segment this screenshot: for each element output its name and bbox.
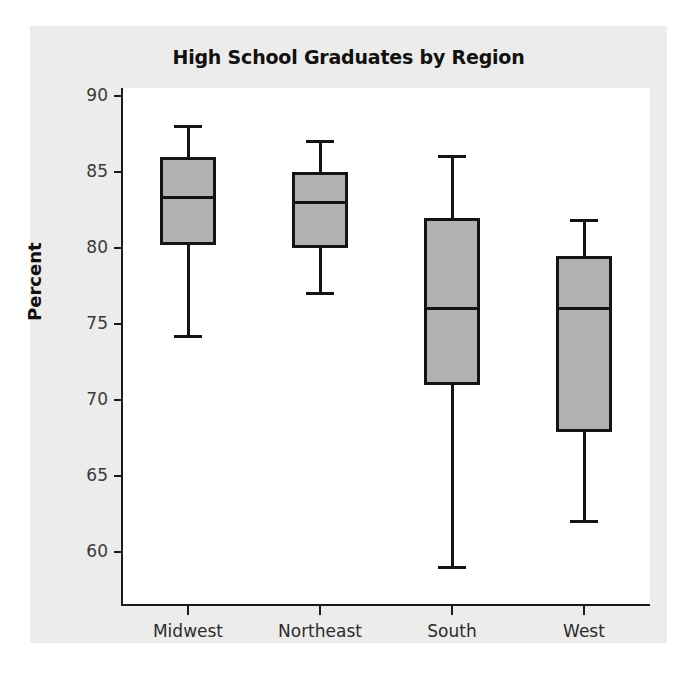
y-tick-mark [114, 323, 122, 325]
upper-whisker-cap [570, 219, 598, 222]
x-tick-label-west: West [519, 621, 649, 641]
upper-whisker-cap [174, 125, 202, 128]
y-tick-mark [114, 399, 122, 401]
y-axis-label: Percent [24, 242, 45, 321]
upper-whisker-stem [583, 221, 586, 256]
upper-whisker-cap [438, 155, 466, 158]
y-tick-label: 90 [64, 85, 108, 105]
y-axis-line [121, 88, 123, 606]
median-line [424, 307, 480, 310]
x-tick-mark [583, 606, 585, 615]
lower-whisker-cap [570, 520, 598, 523]
chart-title: High School Graduates by Region [30, 46, 667, 68]
y-tick-label: 85 [64, 161, 108, 181]
x-tick-label-northeast: Northeast [255, 621, 385, 641]
upper-whisker-cap [306, 140, 334, 143]
y-tick-mark [114, 475, 122, 477]
y-tick-label: 70 [64, 389, 108, 409]
median-line [556, 307, 612, 310]
x-tick-mark [187, 606, 189, 615]
lower-whisker-stem [187, 245, 190, 336]
chart-figure: High School Graduates by Region Percent … [30, 26, 667, 643]
lower-whisker-stem [451, 385, 454, 567]
lower-whisker-cap [174, 335, 202, 338]
x-tick-mark [319, 606, 321, 615]
upper-whisker-stem [451, 157, 454, 218]
upper-whisker-stem [187, 126, 190, 156]
median-line [160, 196, 216, 199]
x-tick-label-south: South [387, 621, 517, 641]
lower-whisker-stem [319, 248, 322, 294]
median-line [292, 201, 348, 204]
y-tick-label: 65 [64, 465, 108, 485]
lower-whisker-stem [583, 432, 586, 522]
lower-whisker-cap [306, 292, 334, 295]
y-tick-mark [114, 551, 122, 553]
iqr-box [160, 157, 216, 245]
iqr-box [424, 218, 480, 385]
y-tick-label: 75 [64, 313, 108, 333]
y-tick-label: 80 [64, 237, 108, 257]
x-axis-line [121, 604, 650, 606]
x-tick-mark [451, 606, 453, 615]
lower-whisker-cap [438, 566, 466, 569]
x-tick-label-midwest: Midwest [123, 621, 253, 641]
iqr-box [292, 172, 348, 248]
iqr-box [556, 256, 612, 432]
y-tick-mark [114, 247, 122, 249]
upper-whisker-stem [319, 142, 322, 172]
y-tick-mark [114, 171, 122, 173]
y-tick-mark [114, 95, 122, 97]
y-tick-label: 60 [64, 541, 108, 561]
